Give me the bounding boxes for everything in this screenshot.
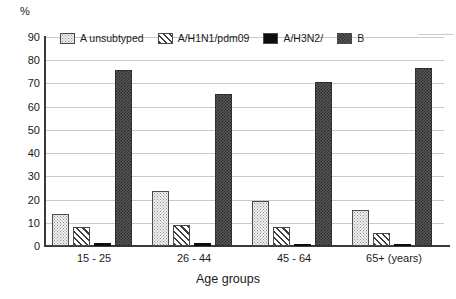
legend-item: B: [337, 33, 364, 44]
legend-item-label: A/H3N2/: [283, 33, 323, 44]
x-axis-title: Age groups: [0, 272, 456, 286]
legend-item: A/H3N2/: [263, 33, 323, 44]
bar: [315, 82, 332, 246]
legend-swatch-icon: [263, 33, 278, 44]
legend-swatch-icon: [60, 33, 75, 44]
y-axis-tick-label: 80: [14, 55, 40, 66]
bar: [373, 233, 390, 246]
bar: [52, 214, 69, 247]
legend-swatch-icon: [158, 33, 173, 44]
y-axis-ticks: 0102030405060708090: [10, 0, 40, 299]
x-axis-tick-label: 15 - 25: [44, 252, 144, 265]
bar: [352, 210, 369, 246]
bar-groups: [46, 37, 446, 246]
bar: [415, 68, 432, 246]
y-axis-tick-label: 90: [14, 32, 40, 43]
y-axis-tick-label: 50: [14, 125, 40, 136]
chart-legend: A unsubtypedA/H1N1/pdm09A/H3N2/B: [60, 29, 378, 47]
legend-item-label: A unsubtyped: [80, 33, 144, 44]
bar: [294, 244, 311, 246]
x-axis-tick-label: 26 - 44: [144, 252, 244, 265]
legend-item: A/H1N1/pdm09: [158, 33, 250, 44]
x-axis-tick-label: 45 - 64: [244, 252, 344, 265]
legend-item-label: B: [357, 33, 364, 44]
y-axis-tick-label: 30: [14, 171, 40, 182]
y-axis-tick-label: 70: [14, 78, 40, 89]
bar-group: [246, 37, 346, 246]
y-axis-tick-label: 20: [14, 195, 40, 206]
legend-item: A unsubtyped: [60, 33, 144, 44]
bar: [73, 227, 90, 246]
bar-chart: % 0102030405060708090 A unsubtypedA/H1N1…: [0, 0, 456, 299]
bar: [115, 70, 132, 246]
bar-group: [46, 37, 146, 246]
bar: [394, 244, 411, 246]
legend-item-label: A/H1N1/pdm09: [178, 33, 250, 44]
bar: [152, 191, 169, 246]
bar: [94, 243, 111, 246]
bar: [215, 94, 232, 246]
bar: [173, 225, 190, 246]
bar: [273, 227, 290, 246]
bar: [252, 201, 269, 246]
legend-trailing-rule: [419, 34, 453, 35]
x-axis-tick-label: 65+ (years): [344, 252, 444, 265]
legend-swatch-icon: [337, 33, 352, 44]
y-axis-tick-label: 60: [14, 102, 40, 113]
y-axis-tick-label: 10: [14, 218, 40, 229]
y-axis-tick-label: 40: [14, 148, 40, 159]
bar-group: [146, 37, 246, 246]
y-axis-tick-label: 0: [14, 241, 40, 252]
bar: [194, 243, 211, 246]
x-axis-ticks: 15 - 2526 - 4445 - 6465+ (years): [44, 252, 450, 268]
bar-group: [346, 37, 446, 246]
